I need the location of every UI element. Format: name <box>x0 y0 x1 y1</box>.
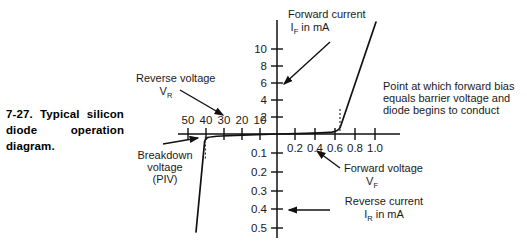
y-tick-label-neg-0-4: 0.4 <box>251 203 268 215</box>
x-tick-labels-positive: 0.2 0.4 0.6 0.8 1.0 <box>287 142 383 154</box>
reverse-current-symbol: IR in mA <box>364 208 404 223</box>
y-tick-label-4: 4 <box>261 94 268 106</box>
reverse-current-label: Reverse current <box>345 195 423 207</box>
annotation-reverse-current: Reverse current IR in mA <box>289 195 423 223</box>
y-tick-label-2: 2 <box>261 111 267 123</box>
figure-root: 7-27. Typical silicon diode operation di… <box>0 0 527 250</box>
x-tick-label-pos-0-2: 0.2 <box>287 142 303 154</box>
annotation-barrier-note: Point at which forward bias equals barri… <box>383 80 515 116</box>
x-tick-label-neg-30: 30 <box>218 114 231 126</box>
barrier-note-line3: diode begins to conduct <box>383 104 499 116</box>
x-tick-label-neg-20: 20 <box>236 114 249 126</box>
y-tick-label-neg-0-2: 0.2 <box>251 166 267 178</box>
y-tick-label-10: 10 <box>254 43 267 55</box>
annotation-forward-current: Forward current IF in mA <box>284 8 366 84</box>
x-tick-label-neg-40: 40 <box>200 114 213 126</box>
barrier-note-line2: equals barrier voltage and <box>383 92 510 104</box>
barrier-note-line1: Point at which forward bias <box>383 80 515 92</box>
forward-conduction-curve <box>277 22 376 134</box>
y-tick-labels-positive: 2 4 6 8 10 <box>254 43 267 123</box>
y-tick-label-neg-0-1: 0.1 <box>251 147 267 159</box>
annotation-breakdown-voltage: Breakdown voltage (PIV) <box>137 138 198 185</box>
annotation-forward-voltage: Forward voltage VF <box>317 151 423 190</box>
x-tick-label-pos-1-0: 1.0 <box>367 142 383 154</box>
forward-current-label: Forward current <box>288 8 366 20</box>
breakdown-voltage-line1: Breakdown <box>137 149 192 161</box>
reverse-voltage-label: Reverse voltage <box>136 72 216 84</box>
reverse-voltage-symbol: VR <box>160 85 173 100</box>
y-tick-label-8: 8 <box>261 60 267 72</box>
breakdown-voltage-line3: (PIV) <box>152 173 177 185</box>
y-tick-labels-negative: 0.1 0.2 0.3 0.4 0.5 <box>251 147 268 234</box>
x-tick-label-pos-0-4: 0.4 <box>307 142 324 154</box>
y-tick-label-neg-0-3: 0.3 <box>251 185 267 197</box>
x-tick-label-neg-50: 50 <box>182 114 195 126</box>
forward-voltage-label: Forward voltage <box>344 162 423 174</box>
x-tick-label-pos-0-8: 0.8 <box>347 142 363 154</box>
breakdown-voltage-line2: voltage <box>147 161 182 173</box>
y-tick-label-6: 6 <box>261 77 267 89</box>
forward-current-symbol: IF in mA <box>291 21 330 36</box>
reverse-voltage-leader-arrow <box>180 90 223 115</box>
figure-caption: 7-27. Typical silicon diode operation di… <box>6 106 124 154</box>
breakdown-voltage-leader-arrow <box>163 138 198 144</box>
x-tick-label-pos-0-6: 0.6 <box>327 142 343 154</box>
annotation-reverse-voltage: Reverse voltage VR <box>136 72 223 115</box>
forward-current-leader-arrow <box>284 42 330 84</box>
x-tick-labels-negative: 50 40 30 20 10 <box>182 114 267 126</box>
y-tick-label-neg-0-5: 0.5 <box>251 222 267 234</box>
forward-voltage-symbol: VF <box>366 175 378 190</box>
